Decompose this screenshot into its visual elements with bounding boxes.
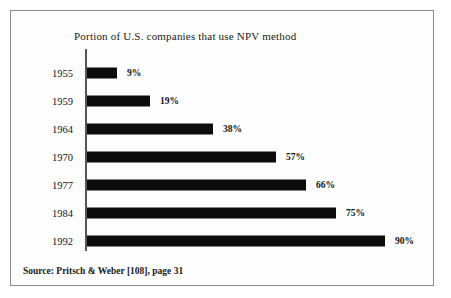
bar-row: 1959 19% bbox=[11, 87, 435, 114]
bar-value-label: 75% bbox=[346, 208, 365, 218]
category-label: 1959 bbox=[21, 95, 73, 106]
bar-row: 1964 38% bbox=[11, 115, 435, 142]
category-label: 1955 bbox=[21, 67, 73, 78]
plot-area: 1955 9% 1959 19% 1964 38% 1970 57% 1977 … bbox=[11, 11, 435, 287]
bar bbox=[87, 67, 117, 78]
bar-row: 1984 75% bbox=[11, 199, 435, 226]
category-label: 1964 bbox=[21, 123, 73, 134]
bar bbox=[87, 235, 385, 246]
bar-value-label: 90% bbox=[395, 236, 414, 246]
bar-value-label: 9% bbox=[127, 68, 141, 78]
category-label: 1977 bbox=[21, 179, 73, 190]
bar-value-label: 38% bbox=[223, 124, 242, 134]
category-label: 1984 bbox=[21, 207, 73, 218]
category-label: 1992 bbox=[21, 235, 73, 246]
bar bbox=[87, 123, 213, 134]
source-note: Source: Pritsch & Weber [108], page 31 bbox=[23, 266, 183, 276]
bar-row: 1992 90% bbox=[11, 227, 435, 254]
bar-row: 1970 57% bbox=[11, 143, 435, 170]
bar-value-label: 66% bbox=[316, 180, 335, 190]
bar bbox=[87, 179, 306, 190]
bar-row: 1955 9% bbox=[11, 59, 435, 86]
category-label: 1970 bbox=[21, 151, 73, 162]
figure-frame: Portion of U.S. companies that use NPV m… bbox=[10, 10, 434, 286]
bar bbox=[87, 151, 276, 162]
bar bbox=[87, 207, 336, 218]
bar-row: 1977 66% bbox=[11, 171, 435, 198]
bar-value-label: 19% bbox=[160, 96, 179, 106]
bar-value-label: 57% bbox=[286, 152, 305, 162]
bar bbox=[87, 95, 150, 106]
